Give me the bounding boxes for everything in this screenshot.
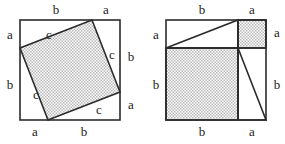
label-bottom-b: b — [81, 124, 88, 139]
left-figure: baabbaabcccc — [7, 2, 135, 139]
label-left-b: b — [7, 77, 14, 92]
right-square-a-squared — [238, 20, 266, 48]
label-c-upper-left: c — [46, 27, 52, 42]
label-c-right: c — [109, 47, 115, 62]
diagram-canvas: baabbaabcccc baababba — [0, 0, 285, 144]
label-c-bottom: c — [96, 102, 102, 117]
label-left-b: b — [153, 77, 160, 92]
label-top-b: b — [53, 2, 60, 17]
label-top-a: a — [249, 2, 255, 17]
label-c-lower-left: c — [33, 87, 39, 102]
label-right-b: b — [128, 49, 135, 64]
label-bottom-a: a — [32, 124, 38, 139]
pythagorean-proof-diagram: baabbaabcccc baababba — [0, 0, 285, 144]
label-top-b: b — [199, 2, 206, 17]
left-inner-tilted-square — [20, 20, 120, 120]
label-top-a: a — [103, 2, 109, 17]
label-right-a: a — [128, 97, 134, 112]
label-bottom-a: a — [249, 124, 255, 139]
label-right-b: b — [274, 77, 281, 92]
label-right-a: a — [274, 25, 280, 40]
label-left-a: a — [7, 27, 13, 42]
label-bottom-b: b — [199, 124, 206, 139]
right-figure: baababba — [153, 2, 281, 139]
label-left-a: a — [153, 27, 159, 42]
right-square-b-squared — [166, 48, 238, 120]
